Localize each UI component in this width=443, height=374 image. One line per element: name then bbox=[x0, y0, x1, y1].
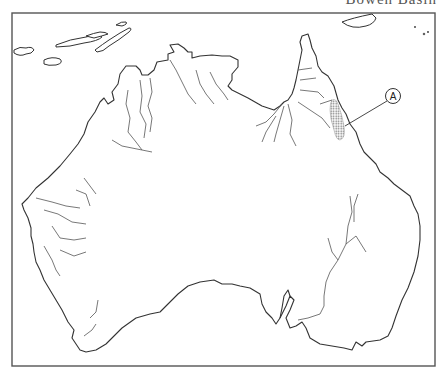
coastline bbox=[22, 34, 420, 352]
australia-map: A bbox=[0, 0, 443, 374]
marker-leader-line bbox=[345, 101, 387, 126]
marker-a[interactable]: A bbox=[345, 89, 401, 127]
bowen-basin-area bbox=[330, 100, 345, 141]
marker-label: A bbox=[390, 91, 397, 102]
rivers bbox=[36, 60, 366, 336]
islands-north bbox=[14, 14, 429, 65]
map-frame bbox=[12, 13, 435, 366]
